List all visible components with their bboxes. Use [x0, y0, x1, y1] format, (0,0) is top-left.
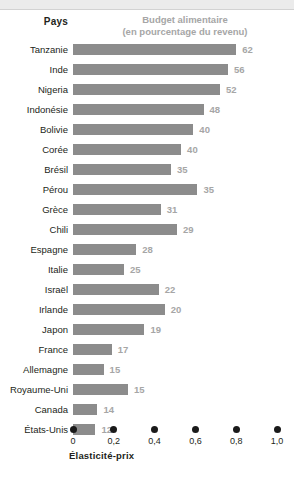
- bar-row: Pérou35: [0, 180, 294, 200]
- bar-row-value-label: 15: [110, 364, 121, 375]
- bar-row-country-label: France: [0, 344, 68, 355]
- bar-row: Royaume-Uni15: [0, 380, 294, 400]
- bar-row-bar: [73, 224, 177, 235]
- x-axis-tick-label: 1,0: [262, 436, 292, 446]
- bar-row-value-label: 56: [234, 64, 245, 75]
- bar-row-value-label: 48: [210, 104, 221, 115]
- bar-row-country-label: Pérou: [0, 184, 68, 195]
- bar-row-bar: [73, 64, 228, 75]
- bar-row: Indonésie48: [0, 100, 294, 120]
- bar-row: Nigeria52: [0, 80, 294, 100]
- column-header-country: Pays: [0, 16, 68, 27]
- bar-row-bar: [73, 184, 197, 195]
- x-axis-tick-label: 0,2: [99, 436, 129, 446]
- x-axis-tick-dot: [151, 426, 158, 433]
- column-header-budget-line1: Budget alimentaire: [88, 14, 282, 26]
- x-axis-tick-dot: [233, 426, 240, 433]
- bar-row-bar: [73, 304, 165, 315]
- x-axis-tick-label: 0,8: [221, 436, 251, 446]
- bar-row-value-label: 35: [177, 164, 188, 175]
- bar-row-value-label: 29: [183, 224, 194, 235]
- x-axis-tick-dot: [110, 426, 117, 433]
- bar-row-value-label: 19: [150, 324, 161, 335]
- bar-row-country-label: Inde: [0, 64, 68, 75]
- bar-row-country-label: Indonésie: [0, 104, 68, 115]
- bar-row: Irlande20: [0, 300, 294, 320]
- bar-row-value-label: 40: [187, 144, 198, 155]
- bar-row-country-label: Espagne: [0, 244, 68, 255]
- bar-row-value-label: 22: [165, 284, 176, 295]
- column-header-budget-line2: (en pourcentage du revenu): [88, 26, 282, 38]
- x-axis-tick-label: 0,4: [140, 436, 170, 446]
- bar-row: Italie25: [0, 260, 294, 280]
- bar-row-bar: [73, 324, 144, 335]
- bar-row: Grèce31: [0, 200, 294, 220]
- bar-row-bar: [73, 264, 124, 275]
- bar-row-country-label: Grèce: [0, 204, 68, 215]
- column-header-budget: Budget alimentaire (en pourcentage du re…: [88, 14, 282, 38]
- bar-rows: Tanzanie62Inde56Nigeria52Indonésie48Boli…: [0, 40, 294, 440]
- bar-row-value-label: 14: [103, 404, 114, 415]
- x-axis-tick-dot: [192, 426, 199, 433]
- bar-row: Inde56: [0, 60, 294, 80]
- bar-row-value-label: 62: [242, 44, 253, 55]
- bar-row-country-label: Tanzanie: [0, 44, 68, 55]
- bar-row-bar: [73, 404, 97, 415]
- bar-row-value-label: 35: [203, 184, 214, 195]
- x-axis-tick-dot: [70, 426, 77, 433]
- bar-row: Corée40: [0, 140, 294, 160]
- bar-row: Israël22: [0, 280, 294, 300]
- bar-row-bar: [73, 204, 161, 215]
- bar-row-country-label: Japon: [0, 324, 68, 335]
- bar-row-country-label: Corée: [0, 144, 68, 155]
- bar-row-bar: [73, 284, 159, 295]
- bar-row-bar: [73, 344, 112, 355]
- bar-row-value-label: 40: [199, 124, 210, 135]
- bar-row: France17: [0, 340, 294, 360]
- bar-row-bar: [73, 364, 104, 375]
- bar-row-value-label: 20: [171, 304, 182, 315]
- bar-row-value-label: 31: [167, 204, 178, 215]
- bar-row-country-label: Royaume-Uni: [0, 384, 68, 395]
- top-band: [0, 0, 294, 9]
- bar-row-bar: [73, 124, 193, 135]
- bar-row-bar: [73, 164, 171, 175]
- bar-row-bar: [73, 44, 236, 55]
- bar-row-country-label: Canada: [0, 404, 68, 415]
- bar-row: Canada14: [0, 400, 294, 420]
- bar-row-value-label: 25: [130, 264, 141, 275]
- bar-row-value-label: 17: [118, 344, 129, 355]
- bar-row-bar: [73, 144, 181, 155]
- bar-row-value-label: 28: [142, 244, 153, 255]
- bar-row-value-label: 15: [134, 384, 145, 395]
- bar-row-bar: [73, 244, 136, 255]
- bar-row: Japon19: [0, 320, 294, 340]
- bar-row-bar: [73, 384, 128, 395]
- bar-row: Allemagne15: [0, 360, 294, 380]
- bar-row-value-label: 52: [226, 84, 237, 95]
- bar-row: Brésil35: [0, 160, 294, 180]
- bar-chart: Pays Budget alimentaire (en pourcentage …: [0, 10, 294, 484]
- x-axis-tick-label: 0,6: [180, 436, 210, 446]
- bar-row-country-label: Irlande: [0, 304, 68, 315]
- bar-row-country-label: Chili: [0, 224, 68, 235]
- bar-row-bar: [73, 104, 204, 115]
- bar-row-country-label: Israël: [0, 284, 68, 295]
- bar-row: Tanzanie62: [0, 40, 294, 60]
- bar-row-bar: [73, 84, 220, 95]
- x-axis: Élasticité-prix 00,20,40,60,81,0: [0, 422, 294, 484]
- bar-row-country-label: Bolivie: [0, 124, 68, 135]
- bar-row-country-label: Allemagne: [0, 364, 68, 375]
- bar-row: Chili29: [0, 220, 294, 240]
- bar-row-country-label: Italie: [0, 264, 68, 275]
- bar-row-country-label: Nigeria: [0, 84, 68, 95]
- x-axis-tick-dot: [274, 426, 281, 433]
- x-axis-title: Élasticité-prix: [69, 450, 134, 461]
- x-axis-tick-label: 0: [58, 436, 88, 446]
- bar-row: Bolivie40: [0, 120, 294, 140]
- bar-row-country-label: Brésil: [0, 164, 68, 175]
- bar-row: Espagne28: [0, 240, 294, 260]
